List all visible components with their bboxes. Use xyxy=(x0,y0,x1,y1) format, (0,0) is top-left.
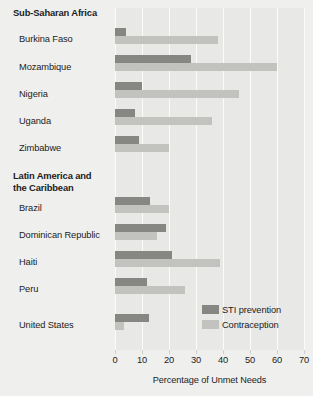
chart-legend: STI prevention Contraception xyxy=(202,303,281,333)
tick-label-0: 0 xyxy=(103,355,127,366)
category-label-brazil: Brazil xyxy=(19,203,42,214)
tick-mark-50 xyxy=(250,350,251,354)
bar-united-states-sti-prevention xyxy=(115,314,149,322)
bar-brazil-sti-prevention xyxy=(115,197,150,205)
legend-label-contraception: Contraception xyxy=(222,320,279,330)
plot-area xyxy=(115,8,304,350)
bar-peru-contraception xyxy=(115,286,185,294)
bar-dominican-republic-sti-prevention xyxy=(115,224,166,232)
bar-uganda-sti-prevention xyxy=(115,109,135,117)
category-label-dominican-republic: Dominican Republic xyxy=(19,230,100,241)
bar-chart: Sub-Saharan Africa Burkina Faso Mozambiq… xyxy=(0,0,313,396)
tick-mark-30 xyxy=(196,350,197,354)
tick-mark-60 xyxy=(277,350,278,354)
bar-peru-sti-prevention xyxy=(115,278,147,286)
bar-burkina-faso-sti-prevention xyxy=(115,28,126,36)
category-label-nigeria: Nigeria xyxy=(19,89,48,100)
tick-mark-40 xyxy=(223,350,224,354)
category-label-haiti: Haiti xyxy=(19,257,37,268)
tick-label-10: 10 xyxy=(130,355,154,366)
tick-label-50: 50 xyxy=(238,355,262,366)
tick-mark-20 xyxy=(169,350,170,354)
category-label-zimbabwe: Zimbabwe xyxy=(19,143,61,154)
gridline-40 xyxy=(223,8,224,350)
legend-swatch-contraception xyxy=(202,320,219,329)
bar-burkina-faso-contraception xyxy=(115,36,218,44)
bar-haiti-sti-prevention xyxy=(115,251,172,259)
tick-label-60: 60 xyxy=(265,355,289,366)
gridline-50 xyxy=(250,8,251,350)
category-label-peru: Peru xyxy=(19,284,38,295)
bar-dominican-republic-contraception xyxy=(115,232,157,240)
category-label-column: Sub-Saharan Africa Burkina Faso Mozambiq… xyxy=(0,0,113,396)
tick-mark-70 xyxy=(304,350,305,354)
bar-mozambique-contraception xyxy=(115,63,277,71)
tick-label-70: 70 xyxy=(292,355,313,366)
bar-nigeria-contraception xyxy=(115,90,239,98)
legend-label-sti-prevention: STI prevention xyxy=(222,305,281,315)
bar-mozambique-sti-prevention xyxy=(115,55,191,63)
tick-label-30: 30 xyxy=(184,355,208,366)
category-label-mozambique: Mozambique xyxy=(19,62,71,73)
category-label-united-states: United States xyxy=(19,320,74,331)
group-header-latin-america: Latin America and the Caribbean xyxy=(13,170,91,193)
bar-brazil-contraception xyxy=(115,205,169,213)
bar-zimbabwe-contraception xyxy=(115,144,169,152)
bar-uganda-contraception xyxy=(115,117,212,125)
category-label-burkina-faso: Burkina Faso xyxy=(19,34,73,45)
gridline-30 xyxy=(196,8,197,350)
tick-label-40: 40 xyxy=(211,355,235,366)
legend-item-contraception: Contraception xyxy=(202,318,281,331)
x-axis-title: Percentage of Unmet Needs xyxy=(115,375,304,385)
bar-united-states-contraception xyxy=(115,322,124,330)
bar-nigeria-sti-prevention xyxy=(115,82,142,90)
legend-item-sti-prevention: STI prevention xyxy=(202,303,281,316)
tick-mark-0 xyxy=(115,350,116,354)
bar-zimbabwe-sti-prevention xyxy=(115,136,139,144)
tick-label-20: 20 xyxy=(157,355,181,366)
group-header-sub-saharan-africa: Sub-Saharan Africa xyxy=(13,7,97,19)
bar-haiti-contraception xyxy=(115,259,220,267)
legend-swatch-sti-prevention xyxy=(202,305,219,314)
gridline-70 xyxy=(304,8,305,350)
category-label-uganda: Uganda xyxy=(19,116,51,127)
tick-mark-10 xyxy=(142,350,143,354)
gridline-60 xyxy=(277,8,278,350)
